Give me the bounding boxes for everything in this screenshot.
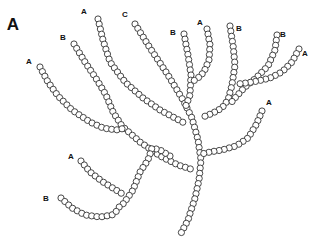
chain-end-label-b: B — [236, 24, 242, 33]
glucose-bead — [178, 229, 184, 235]
glucose-bead — [183, 102, 189, 108]
chain-end-label-b: B — [170, 28, 176, 37]
chain-end-label-c: C — [122, 10, 128, 19]
glucose-bead — [202, 113, 208, 119]
glucose-bead — [191, 77, 197, 83]
chain-c-trunk — [132, 21, 204, 236]
glucose-bead — [229, 98, 235, 104]
glucose-bead — [180, 119, 186, 125]
chain-end-label-b: B — [280, 30, 286, 39]
chain-end-label-b: B — [60, 33, 66, 42]
chain-a-far-left — [37, 64, 125, 133]
chain-end-label-a: A — [26, 57, 32, 66]
panel-label: A — [7, 15, 19, 34]
chain-end-label-a: A — [266, 98, 272, 107]
chain-a-lower-left — [78, 158, 124, 196]
bead-chains — [37, 16, 302, 236]
chain-b-lower-left — [58, 195, 119, 220]
chain-end-label-a: A — [68, 152, 74, 161]
glucose-bead — [237, 81, 243, 87]
chain-lower-trunk — [116, 146, 173, 210]
branching-diagram: AABACBABBAAAB — [0, 0, 323, 249]
glucose-bead — [113, 208, 119, 214]
glucose-bead — [187, 166, 193, 172]
chain-end-label-a: A — [302, 49, 308, 58]
glucose-bead — [118, 190, 124, 196]
chain-end-label-b: B — [43, 194, 49, 203]
glucose-bead — [201, 150, 207, 156]
chain-b-left — [71, 41, 193, 172]
chain-end-label-a: A — [197, 18, 203, 27]
glucose-bead — [119, 126, 125, 132]
branched-chain-figure: AABACBABBAAAB — [0, 0, 323, 249]
chain-end-label-a: A — [81, 7, 87, 16]
